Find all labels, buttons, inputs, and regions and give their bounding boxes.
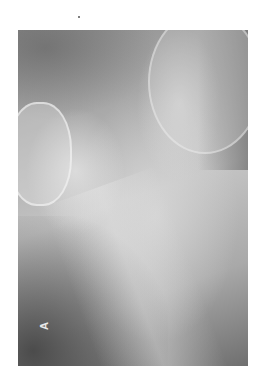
panel-label: A [38,322,50,330]
bone-outline-upper [148,30,248,154]
bone-outline-left [18,102,72,206]
radiograph-panel: A [18,30,248,366]
scan-speck [78,16,80,18]
